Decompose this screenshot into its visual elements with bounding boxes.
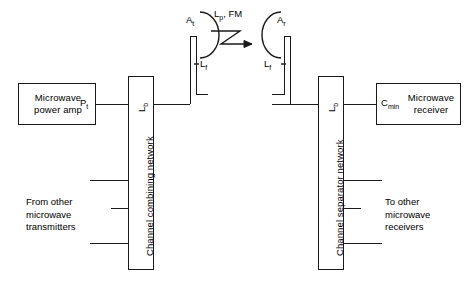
transmit-antenna-dish-icon	[200, 12, 219, 58]
receive-antenna-dish-icon	[262, 12, 281, 58]
propagation-arrowhead-icon	[244, 41, 252, 48]
antenna-and-propagation-overlay	[0, 0, 475, 284]
diagram-canvas: Microwave power amp Pt Channel combining…	[0, 0, 475, 284]
